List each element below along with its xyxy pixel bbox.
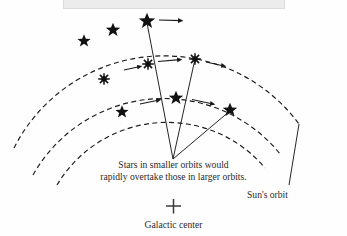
star-marker xyxy=(106,23,120,36)
figure-container: Stars in smaller orbits would rapidly ov… xyxy=(0,0,347,236)
star-group-middle xyxy=(98,53,201,85)
star-group-inner xyxy=(115,91,237,118)
orbit-caption: Stars in smaller orbits would rapidly ov… xyxy=(0,159,347,184)
galactic-center-marker xyxy=(166,199,181,214)
caption-line-1: Stars in smaller orbits would xyxy=(118,159,228,170)
star-marker xyxy=(98,73,110,85)
sun-orbit-label: Sun's orbit xyxy=(247,189,337,201)
radial-lines xyxy=(147,23,231,159)
star-marker xyxy=(115,105,128,117)
star-marker xyxy=(169,91,183,104)
galactic-center-label: Galactic center xyxy=(0,219,347,231)
star-marker xyxy=(189,53,201,65)
outer-orbit-arc xyxy=(14,20,299,148)
caption-line-2: rapidly overtake those in larger orbits. xyxy=(0,171,347,183)
star-marker xyxy=(142,58,154,70)
star-marker xyxy=(139,13,155,28)
star-marker xyxy=(77,34,90,46)
star-group-outer xyxy=(77,13,155,47)
